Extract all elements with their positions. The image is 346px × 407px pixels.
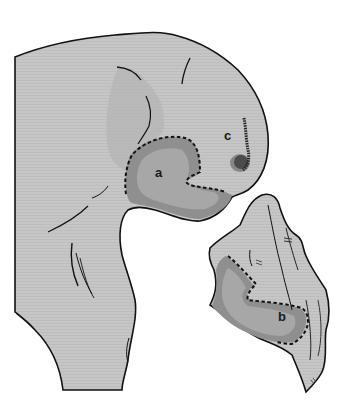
anatomical-figure: a b c bbox=[0, 0, 346, 407]
lower-fragment bbox=[209, 194, 329, 392]
label-a: a bbox=[155, 166, 162, 179]
label-b: b bbox=[278, 310, 286, 323]
upper-structure bbox=[15, 32, 268, 390]
figure-svg bbox=[0, 0, 346, 407]
label-c: c bbox=[224, 129, 231, 142]
